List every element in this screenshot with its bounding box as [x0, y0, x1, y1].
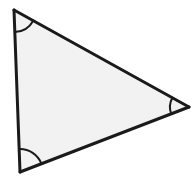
figure-canvas	[0, 0, 196, 180]
triangle-figure	[0, 0, 196, 180]
